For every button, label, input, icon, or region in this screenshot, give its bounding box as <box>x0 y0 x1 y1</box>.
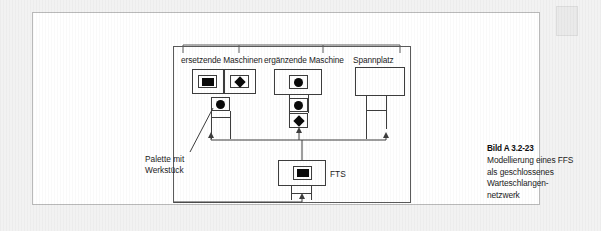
queue-cell-circle-2 <box>289 98 308 112</box>
caption-title: Bild A 3.2-23 <box>487 144 593 153</box>
annotation-palette-line-1: Palette mit <box>145 154 184 165</box>
figure-caption: Bild A 3.2-23 Modellierung eines FFS als… <box>487 144 593 201</box>
server-cell-circle-2 <box>289 75 308 89</box>
caption-line-4: netzwerk <box>487 190 593 202</box>
server-cell-diamond-1 <box>230 75 249 88</box>
figure-panel: ersetzende Maschinen ergänzende Maschine… <box>32 12 540 205</box>
station-label-fts: FTS <box>330 169 346 179</box>
annotation-palette-mit-werkstueck: Palette mit Werkstück <box>145 154 184 175</box>
square-icon <box>202 78 214 86</box>
circle-icon <box>216 100 225 109</box>
annotation-palette-line-2: Werkstück <box>145 165 184 176</box>
diamond-icon <box>234 76 245 87</box>
square-icon <box>297 169 309 177</box>
figure-page: ersetzende Maschinen ergänzende Maschine… <box>0 0 601 231</box>
queue-cell-diamond-2 <box>289 113 308 128</box>
diamond-icon <box>293 115 304 126</box>
circle-icon <box>294 101 303 110</box>
palette-leader-line <box>145 108 215 156</box>
server-cell-square-1 <box>198 75 217 88</box>
circle-icon <box>294 78 303 87</box>
caption-line-3: Warteschlangen- <box>487 178 593 190</box>
caption-line-1: Modellierung eines FFS <box>487 155 593 167</box>
caption-line-2: als geschlossenes <box>487 167 593 179</box>
server-cell-square-fts <box>293 166 312 180</box>
page-edge-tab <box>556 6 578 36</box>
